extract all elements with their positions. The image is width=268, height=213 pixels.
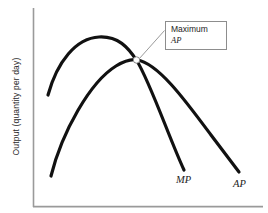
callout-leader-line <box>139 31 165 60</box>
average-marginal-product-figure: Output (quantity per day) Maximum AP MP … <box>0 0 268 213</box>
mp-curve-label: MP <box>176 174 191 185</box>
mp-curve <box>48 37 184 170</box>
maximum-ap-callout: Maximum AP <box>165 21 227 50</box>
ap-curve-label: AP <box>233 178 246 189</box>
callout-text-maximum: Maximum <box>171 24 226 35</box>
intersection-point <box>133 57 139 63</box>
plot-canvas <box>0 0 268 213</box>
callout-text-ap: AP <box>171 35 226 46</box>
